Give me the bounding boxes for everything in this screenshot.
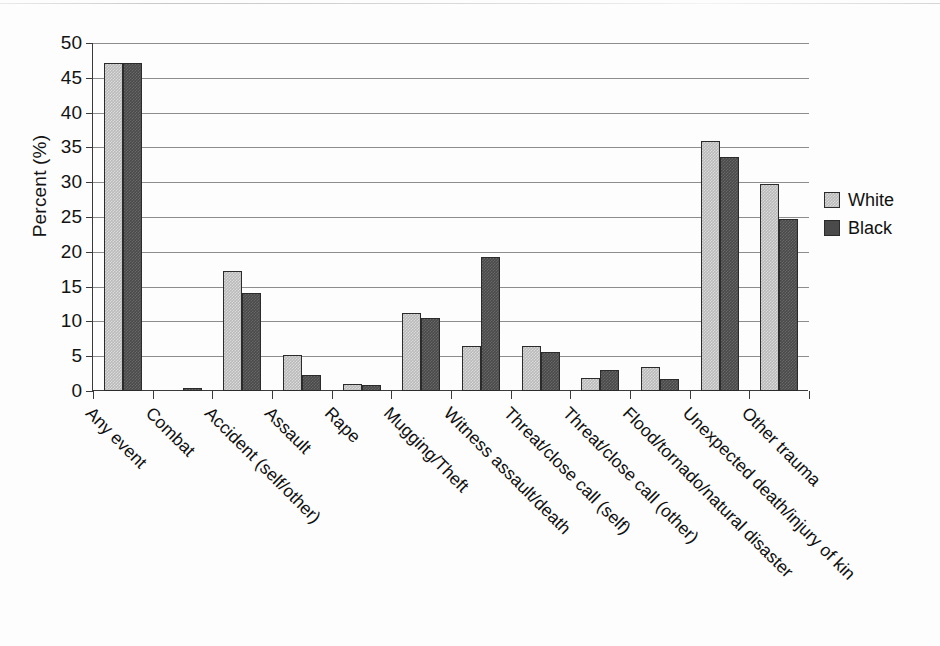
bar-white — [104, 63, 123, 391]
y-tick-mark-15 — [86, 287, 93, 288]
bar-black — [421, 318, 440, 391]
y-tick-label-35: 35 — [61, 136, 82, 158]
bar-group — [701, 43, 739, 391]
y-tick-label-25: 25 — [61, 206, 82, 228]
bar-group — [402, 43, 440, 391]
y-tick-label-15: 15 — [61, 275, 82, 297]
bar-group — [283, 43, 321, 391]
bar-white — [701, 141, 720, 391]
bar-group — [343, 43, 381, 391]
bar-black — [481, 257, 500, 391]
x-tick-label: Any event — [81, 403, 151, 473]
y-tick-mark-10 — [86, 321, 93, 322]
y-tick-label-5: 5 — [71, 345, 82, 367]
bar-group — [581, 43, 619, 391]
bar-black — [541, 352, 560, 391]
bar-black — [600, 370, 619, 391]
bar-group — [522, 43, 560, 391]
bar-white — [760, 184, 779, 391]
bar-group — [760, 43, 798, 391]
bar-white — [223, 271, 242, 391]
x-axis-labels: Any eventCombatAccident (self/other)Assa… — [92, 391, 808, 641]
legend-swatch-white-icon — [824, 192, 840, 208]
bar-white — [402, 313, 421, 391]
bar-group — [462, 43, 500, 391]
bar-black — [779, 219, 798, 391]
bar-white — [283, 355, 302, 391]
legend-swatch-black-icon — [824, 220, 840, 236]
scan-artifact-line — [0, 3, 940, 4]
bar-white — [641, 367, 660, 391]
legend-label-black: Black — [848, 218, 892, 239]
y-tick-mark-40 — [86, 113, 93, 114]
x-tick-mark — [809, 391, 810, 399]
x-tick-label: Accident (self/other) — [200, 403, 325, 528]
y-tick-mark-5 — [86, 356, 93, 357]
y-tick-label-45: 45 — [61, 66, 82, 88]
chart-legend: White Black — [824, 186, 894, 242]
y-axis-title: Percent (%) — [29, 86, 51, 286]
y-tick-mark-20 — [86, 252, 93, 253]
bar-black — [660, 379, 679, 391]
legend-label-white: White — [848, 190, 894, 211]
y-tick-mark-35 — [86, 147, 93, 148]
bar-black — [123, 63, 142, 391]
bars-layer — [93, 43, 809, 391]
bar-white — [581, 378, 600, 391]
y-tick-label-50: 50 — [61, 32, 82, 54]
y-tick-label-40: 40 — [61, 101, 82, 123]
x-tick-label: Combat — [141, 403, 199, 461]
bar-chart-figure: Percent (%) 05101520253035404550 Any eve… — [0, 0, 940, 646]
y-tick-label-0: 0 — [71, 380, 82, 402]
x-tick-label: Assault — [260, 403, 315, 458]
y-tick-label-10: 10 — [61, 310, 82, 332]
bar-white — [343, 384, 362, 391]
y-tick-mark-30 — [86, 182, 93, 183]
bar-group — [164, 43, 202, 391]
bar-black — [720, 157, 739, 391]
bar-white — [462, 346, 481, 391]
bar-black — [242, 293, 261, 391]
bar-white — [522, 346, 541, 391]
x-tick-label: Rape — [320, 403, 364, 447]
legend-item-white: White — [824, 186, 894, 214]
bar-group — [223, 43, 261, 391]
plot-area: 05101520253035404550 — [92, 43, 808, 391]
legend-item-black: Black — [824, 214, 894, 242]
y-tick-label-30: 30 — [61, 171, 82, 193]
bar-black — [302, 375, 321, 391]
y-tick-mark-50 — [86, 43, 93, 44]
y-tick-mark-25 — [86, 217, 93, 218]
bar-group — [104, 43, 142, 391]
bar-group — [641, 43, 679, 391]
y-tick-mark-45 — [86, 78, 93, 79]
y-tick-label-20: 20 — [61, 240, 82, 262]
